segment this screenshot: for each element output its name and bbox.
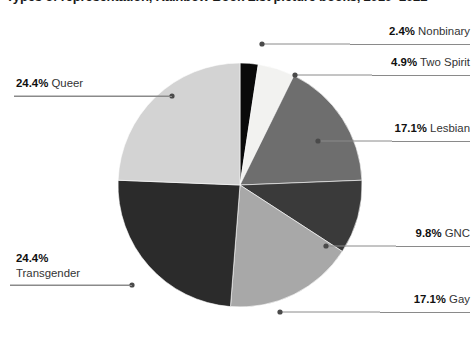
pie-slice-queer xyxy=(118,63,240,185)
pie-slices-group xyxy=(118,63,362,307)
label-rule-gay xyxy=(380,312,470,313)
slice-percent-transgender: 24.4% xyxy=(16,252,48,264)
label-rule-queer xyxy=(14,96,172,97)
slice-name-queer: Queer xyxy=(51,77,83,89)
label-rule-transgender xyxy=(10,285,132,286)
slice-label-gay: 17.1% Gay xyxy=(414,292,470,307)
leader-dot-lesbian xyxy=(315,138,320,143)
slice-percent-nonbinary: 2.4% xyxy=(389,25,415,37)
label-rule-lesbian xyxy=(392,141,470,142)
pie-slice-transgender xyxy=(118,180,240,306)
slice-name-lesbian: Lesbian xyxy=(430,122,470,134)
leader-dot-gay xyxy=(277,309,282,314)
slice-label-gnc: 9.8% GNC xyxy=(416,226,470,241)
slice-label-transgender: 24.4% Transgender xyxy=(16,251,80,280)
slice-name-gay: Gay xyxy=(449,293,470,305)
slice-name-transgender: Transgender xyxy=(16,267,80,279)
slice-percent-lesbian: 17.1% xyxy=(395,122,427,134)
slice-name-nonbinary: Nonbinary xyxy=(418,25,470,37)
slice-label-nonbinary: 2.4% Nonbinary xyxy=(389,24,470,39)
slice-percent-queer: 24.4% xyxy=(16,77,48,89)
label-rule-two-spirit xyxy=(372,75,470,76)
leader-dot-nonbinary xyxy=(259,41,264,46)
slice-percent-gay: 17.1% xyxy=(414,293,446,305)
leader-dot-gnc xyxy=(323,243,328,248)
slice-name-two-spirit: Two Spirit xyxy=(420,56,470,68)
slice-percent-gnc: 9.8% xyxy=(416,227,442,239)
leader-dot-two-spirit xyxy=(292,72,297,77)
pie-chart-figure: Types of representation, Rainbow Book Li… xyxy=(0,0,474,344)
label-rule-nonbinary xyxy=(350,44,470,45)
pie-chart-svg xyxy=(0,0,474,344)
slice-percent-two-spirit: 4.9% xyxy=(391,56,417,68)
slice-label-lesbian: 17.1% Lesbian xyxy=(395,121,470,136)
slice-label-queer: 24.4% Queer xyxy=(16,76,83,91)
slice-name-gnc: GNC xyxy=(445,227,470,239)
slice-label-two-spirit: 4.9% Two Spirit xyxy=(391,55,470,70)
label-rule-gnc xyxy=(396,246,470,247)
